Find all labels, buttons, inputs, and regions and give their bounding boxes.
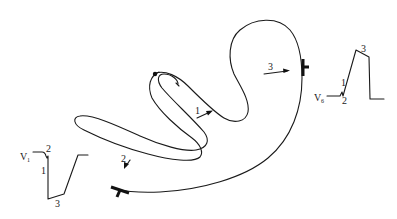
lead-v1-label-3: 3 (55, 198, 60, 209)
lead-v1-complex: V 1 2 1 3 (20, 143, 88, 209)
lead-v6-label-2: 2 (342, 95, 347, 106)
arrow-2-label: 2 (121, 153, 126, 164)
conduction-diagram: 1 2 3 V 1 2 1 3 V 6 1 2 3 (0, 0, 397, 219)
lead-v6-label-3: 3 (361, 43, 366, 54)
lead-v6-waveform (327, 50, 384, 99)
arrowhead-icon (283, 69, 290, 74)
lead-v6-label-1: 1 (341, 77, 346, 88)
block-marker-right (303, 59, 309, 76)
lead-v6-complex: V 6 1 2 3 (314, 43, 384, 106)
diagram-canvas: 1 2 3 V 1 2 1 3 V 6 1 2 3 (0, 0, 397, 219)
lead-v1-subscript: 1 (27, 157, 30, 163)
arrowhead-icon (206, 111, 213, 116)
block-marker-bottom (111, 187, 129, 197)
arrow-3-label: 3 (268, 61, 273, 72)
main-pathway-curve (116, 20, 302, 192)
arrow-3: 3 (264, 61, 290, 74)
lead-v1-label-1: 1 (41, 165, 46, 176)
lead-v6-subscript: 6 (321, 98, 324, 104)
arrow-1-label: 1 (195, 105, 200, 116)
arrow-2: 2 (121, 153, 130, 169)
lead-v1-label-2: 2 (46, 143, 51, 154)
